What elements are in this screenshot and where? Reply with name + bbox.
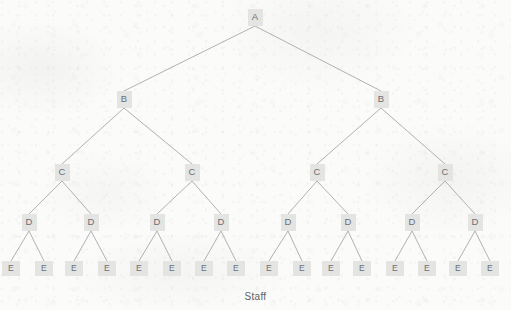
tree-edge [288,181,317,214]
tree-edge [445,181,475,214]
tree-edge [255,26,381,91]
tree-edge [157,231,172,261]
tree-node-e[interactable]: E [227,261,245,276]
tree-diagram-figure: ABBCCCCDDDDDDDDEEEEEEEEEEEEEEEE Staff [0,0,511,310]
tree-node-d[interactable]: D [150,214,165,231]
tree-node-e[interactable]: E [481,261,499,276]
tree-node-e[interactable]: E [386,261,404,276]
tree-node-e[interactable]: E [293,261,311,276]
tree-node-b[interactable]: B [117,91,132,108]
tree-edge [331,231,348,261]
tree-edge [29,231,44,261]
tree-edge [458,231,475,261]
tree-node-e[interactable]: E [260,261,278,276]
tree-node-d[interactable]: D [341,214,356,231]
tree-edge [317,108,381,164]
tree-edge [204,231,221,261]
tree-node-e[interactable]: E [65,261,83,276]
tree-node-c[interactable]: C [55,164,70,181]
tree-node-c[interactable]: C [185,164,200,181]
tree-edge [62,108,124,164]
tree-node-a[interactable]: A [248,9,263,26]
tree-edge [192,181,221,214]
tree-edge [221,231,236,261]
tree-node-d[interactable]: D [468,214,483,231]
tree-edge [11,231,29,261]
tree-node-e[interactable]: E [449,261,467,276]
tree-edge [62,181,91,214]
tree-node-d[interactable]: D [281,214,296,231]
tree-edge [412,231,427,261]
tree-node-b[interactable]: B [374,91,389,108]
tree-node-e[interactable]: E [2,261,20,276]
tree-node-e[interactable]: E [418,261,436,276]
tree-edge [91,231,107,261]
tree-edge [348,231,362,261]
tree-edge [29,181,62,214]
tree-edge [124,26,255,91]
tree-node-d[interactable]: D [214,214,229,231]
tree-node-e[interactable]: E [163,261,181,276]
tree-node-e[interactable]: E [195,261,213,276]
tree-node-c[interactable]: C [310,164,325,181]
figure-caption: Staff [0,291,511,302]
tree-node-e[interactable]: E [130,261,148,276]
tree-edge [124,108,192,164]
tree-node-e[interactable]: E [35,261,53,276]
tree-node-e[interactable]: E [322,261,340,276]
tree-edge [395,231,412,261]
tree-edge [475,231,490,261]
tree-edge [288,231,302,261]
tree-edge [74,231,91,261]
tree-node-d[interactable]: D [84,214,99,231]
tree-edge [381,108,445,164]
tree-edge [139,231,157,261]
tree-edge [412,181,445,214]
tree-node-d[interactable]: D [405,214,420,231]
tree-edge [269,231,288,261]
tree-node-c[interactable]: C [438,164,453,181]
tree-edge [157,181,192,214]
tree-node-d[interactable]: D [22,214,37,231]
tree-node-e[interactable]: E [98,261,116,276]
tree-edge [317,181,348,214]
tree-node-e[interactable]: E [353,261,371,276]
